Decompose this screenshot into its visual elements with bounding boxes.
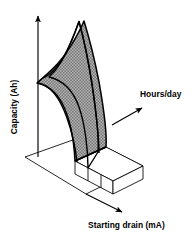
- hours-per-day-axis-line: [112, 108, 142, 125]
- surface-plot-svg: Capacity (Ah) Hours/day Starting drain (…: [0, 0, 193, 245]
- starting-drain-axis-line: [86, 194, 122, 212]
- capacity-axis-label: Capacity (Ah): [9, 80, 19, 135]
- hours-per-day-axis: [112, 108, 142, 125]
- hours-per-day-axis-label: Hours/day: [140, 89, 182, 99]
- starting-drain-axis: [86, 194, 122, 212]
- starting-drain-axis-label: Starting drain (mA): [88, 220, 165, 230]
- figure-container: Capacity (Ah) Hours/day Starting drain (…: [0, 0, 193, 245]
